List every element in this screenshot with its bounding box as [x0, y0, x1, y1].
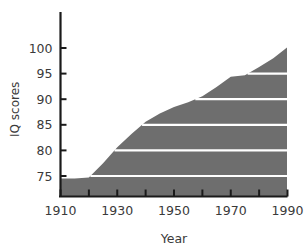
- x-tick-label-1910: 1910: [45, 203, 77, 218]
- x-tick-label-1950: 1950: [158, 203, 190, 218]
- x-tick-label-1970: 1970: [215, 203, 247, 218]
- y-tick-label-75: 75: [37, 169, 53, 184]
- y-tick-label-85: 85: [37, 117, 53, 132]
- iq-scores-area-chart: 7580859095100 19101930195019701990 IQ sc…: [0, 0, 308, 251]
- y-axis-title: IQ scores: [8, 82, 22, 137]
- y-tick-label-95: 95: [37, 66, 53, 81]
- x-tick-label-1990: 1990: [272, 203, 304, 218]
- y-tick-label-80: 80: [37, 143, 53, 158]
- x-axis-title: Year: [160, 231, 188, 246]
- y-tick-label-90: 90: [37, 92, 53, 107]
- x-tick-label-1930: 1930: [101, 203, 133, 218]
- y-tick-label-100: 100: [29, 41, 53, 56]
